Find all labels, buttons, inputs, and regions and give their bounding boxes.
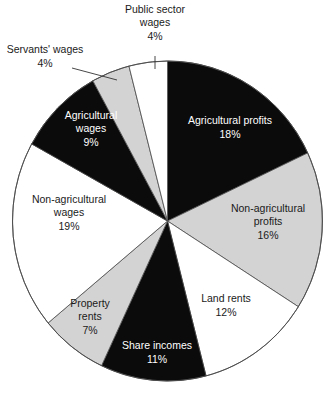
pie-chart: Agricultural profits18%Non-agriculturalp… (0, 0, 335, 395)
slice-label: Public sectorwages4% (125, 3, 186, 42)
slice-label: Servants' wages4% (7, 43, 84, 69)
